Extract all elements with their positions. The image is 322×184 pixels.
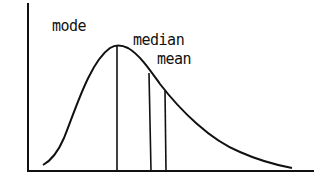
median-line <box>149 73 151 171</box>
mode-label: mode <box>52 17 87 35</box>
mean-line <box>165 91 166 171</box>
mean-label: mean <box>157 50 191 68</box>
skewed-distribution-diagram: mode median mean <box>0 0 322 184</box>
median-label: median <box>133 31 184 49</box>
